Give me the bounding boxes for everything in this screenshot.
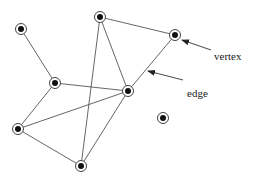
edge-C-D [100, 17, 128, 91]
vertex-A [16, 24, 27, 35]
vertex-dot [15, 126, 21, 132]
edges-group [18, 17, 175, 166]
vertex-label: vertex [214, 51, 241, 62]
vertex-dot [160, 115, 166, 121]
vertex-dot [18, 26, 24, 32]
edge-E-D [128, 35, 175, 91]
vertex-dot [125, 88, 131, 94]
vertex-C [95, 12, 106, 23]
edge-C-E [100, 17, 175, 35]
vertex-dot [97, 14, 103, 20]
vertex-dot [172, 32, 178, 38]
vertex-G [76, 161, 87, 172]
vertices-group [13, 12, 181, 172]
annotation-arrows-group [148, 40, 211, 80]
edge-C-G [81, 17, 100, 166]
edge-B-F [18, 83, 55, 129]
vertex-dot [78, 163, 84, 169]
vertex-dot [52, 80, 58, 86]
edge-G-D [81, 91, 128, 166]
vertex-D [123, 86, 134, 97]
edge-label: edge [187, 88, 208, 99]
vertex-E [170, 30, 181, 41]
vertex-B [50, 78, 61, 89]
vertex-arrow-icon [182, 40, 211, 50]
edge-F-D [18, 91, 128, 129]
edge-A-B [21, 29, 55, 83]
vertex-F [13, 124, 24, 135]
edge-F-G [18, 129, 81, 166]
edge-arrow-icon [148, 71, 183, 80]
vertex-H [158, 113, 169, 124]
graph-diagram [0, 0, 259, 182]
